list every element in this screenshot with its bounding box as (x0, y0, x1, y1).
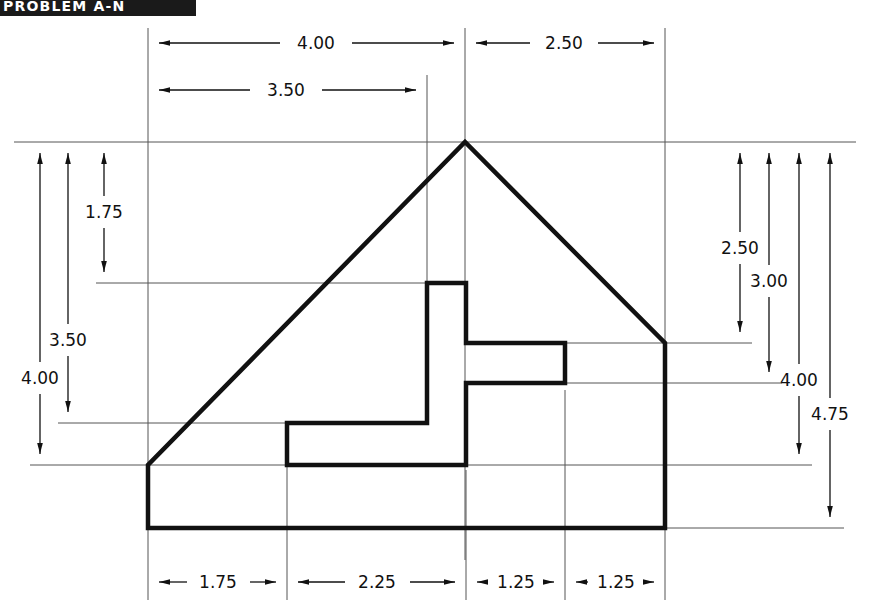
left-dimensions-group (40, 153, 104, 454)
top-dim-2-50-label: 2.50 (545, 33, 583, 53)
right-dim-4-75-label: 4.75 (811, 404, 849, 424)
bottom-dim-2-25-label: 2.25 (358, 572, 396, 592)
technical-drawing-canvas: 4.00 2.50 3.50 1.75 3.50 4.00 (0, 0, 870, 616)
right-dim-4-00-label: 4.00 (780, 370, 818, 390)
right-dim-3-00-label: 3.00 (750, 271, 788, 291)
drawing-sheet: PROBLEM A-N (0, 0, 870, 616)
left-dim-4-00-label: 4.00 (21, 368, 59, 388)
part-inner-slot (287, 283, 565, 465)
top-dim-4-00-label: 4.00 (297, 33, 335, 53)
right-dim-2-50-label: 2.50 (721, 238, 759, 258)
top-dim-3-50-label: 3.50 (267, 80, 305, 100)
left-dimension-labels: 1.75 3.50 4.00 (21, 202, 123, 388)
bottom-dim-1-75-label: 1.75 (199, 572, 237, 592)
bottom-dim-1-25-b-label: 1.25 (597, 572, 635, 592)
right-dimensions-group (740, 153, 830, 517)
bottom-dim-1-25-label: 1.25 (497, 572, 535, 592)
extension-lines-group (14, 28, 856, 600)
left-dim-1-75-label: 1.75 (85, 202, 123, 222)
left-dim-3-50-label: 3.50 (49, 330, 87, 350)
part-outer-profile (148, 142, 665, 528)
